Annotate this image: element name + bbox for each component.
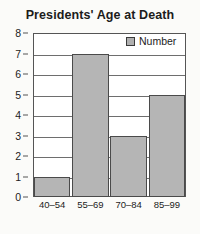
- y-tick-label: 8: [15, 28, 21, 39]
- y-tick-mark: [23, 176, 28, 177]
- y-tick-mark: [23, 115, 28, 116]
- y-tick-label: 0: [15, 192, 21, 203]
- y-tick-label: 4: [15, 110, 21, 121]
- y-tick-label: 2: [15, 151, 21, 162]
- bars-layer: [33, 33, 186, 197]
- chart-title: Presidents' Age at Death: [0, 8, 200, 22]
- x-tick-label: 70–84: [115, 200, 141, 210]
- bar: [72, 54, 109, 198]
- y-tick-mark: [23, 94, 28, 95]
- y-tick-mark: [23, 135, 28, 136]
- x-tick-label: 85–99: [154, 200, 180, 210]
- bar: [34, 177, 71, 198]
- y-tick-mark: [23, 74, 28, 75]
- y-tick-mark: [23, 33, 28, 34]
- legend-label-number: Number: [139, 36, 176, 47]
- bar: [149, 95, 186, 198]
- legend-swatch-number: [126, 37, 135, 46]
- y-tick-label: 5: [15, 89, 21, 100]
- bar-chart-figure: Presidents' Age at Death 012345678 40–54…: [0, 0, 200, 234]
- x-axis: 40–5455–6970–8485–99: [33, 200, 186, 216]
- y-axis: 012345678: [0, 33, 28, 197]
- x-tick-label: 55–69: [77, 200, 103, 210]
- y-tick-label: 6: [15, 69, 21, 80]
- bar: [110, 136, 147, 198]
- legend: Number: [126, 36, 176, 47]
- y-tick-mark: [23, 156, 28, 157]
- y-tick-mark: [23, 197, 28, 198]
- y-tick-label: 1: [15, 171, 21, 182]
- y-tick-mark: [23, 53, 28, 54]
- y-tick-label: 3: [15, 130, 21, 141]
- x-tick-label: 40–54: [39, 200, 65, 210]
- y-tick-label: 7: [15, 48, 21, 59]
